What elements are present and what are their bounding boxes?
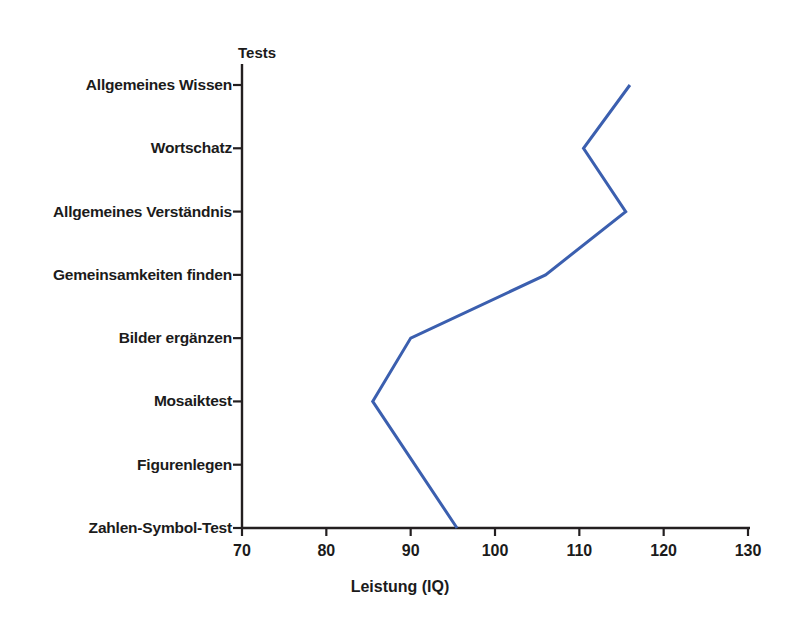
x-axis-tick-label: 100 [482, 542, 509, 560]
x-axis-tick-label: 120 [650, 542, 677, 560]
x-axis-tick-label: 80 [317, 542, 335, 560]
axis-lines [242, 64, 750, 528]
x-axis-tick-label: 130 [735, 542, 762, 560]
chart-container: Tests Allgemeines WissenWortschatzAllgem… [0, 0, 800, 632]
x-axis-tick-label: 70 [233, 542, 251, 560]
plot-area [0, 0, 800, 632]
x-axis-tick-label: 110 [566, 542, 592, 560]
data-series-line [373, 85, 630, 528]
y-axis-ticks [233, 85, 242, 528]
x-axis-title: Leistung (IQ) [0, 578, 800, 596]
x-axis-tick-label: 90 [402, 542, 420, 560]
